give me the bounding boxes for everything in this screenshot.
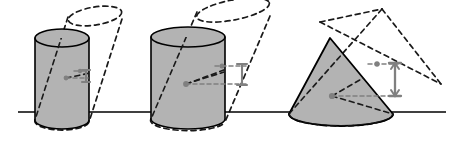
center-dot-copy-3 xyxy=(374,61,379,66)
sheared-cone-edge-right xyxy=(382,9,441,84)
center-dot-solid-1 xyxy=(64,76,69,81)
cylinder-small-body xyxy=(35,38,89,129)
center-dot-copy-2 xyxy=(220,64,225,69)
geometry-illustration: Cavalieri principle illustration: three … xyxy=(0,0,462,142)
sheared-top-ellipse-2 xyxy=(195,0,271,27)
center-dot-solid-2 xyxy=(183,81,189,87)
cylinder-large xyxy=(151,12,270,131)
sheared-side-right-2 xyxy=(225,16,270,122)
height-marker-3 xyxy=(389,63,401,96)
cone xyxy=(289,9,393,126)
sheared-top-ellipse-1 xyxy=(67,3,123,29)
center-dot-solid-3 xyxy=(329,93,335,99)
cylinder-small xyxy=(35,17,122,130)
figure-canvas: Cavalieri principle illustration: three … xyxy=(0,0,462,142)
sheared-side-right-1 xyxy=(89,19,122,122)
cylinder-large-top-face xyxy=(151,27,225,47)
